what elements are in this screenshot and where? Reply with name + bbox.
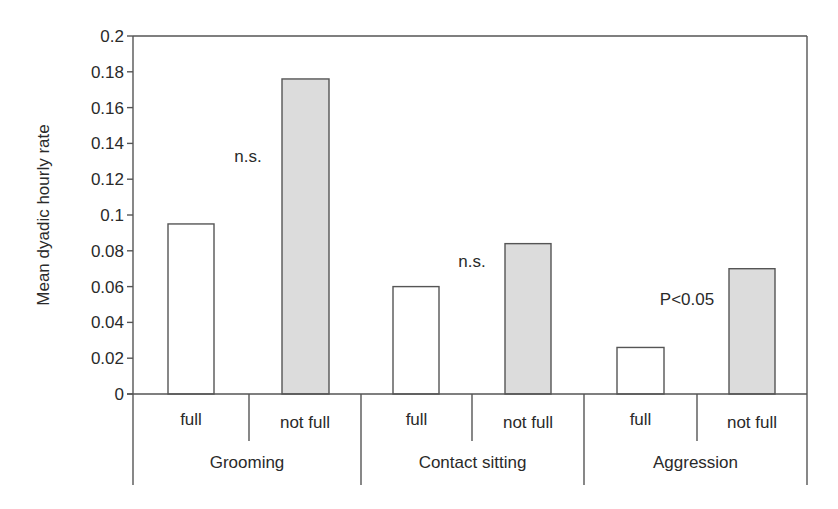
bar-contact-sitting-full <box>393 287 439 394</box>
y-tick-label: 0.18 <box>91 63 124 82</box>
y-tick-label: 0.02 <box>91 349 124 368</box>
category-label: Contact sitting <box>419 453 527 472</box>
y-tick-label: 0 <box>115 385 124 404</box>
bar-chart: Mean dyadic hourly rate 00.020.040.060.0… <box>0 0 838 509</box>
bar-grooming-full <box>168 224 214 394</box>
y-tick-label: 0.2 <box>100 27 124 46</box>
y-axis-ticks: 00.020.040.060.080.10.120.140.160.180.2 <box>91 27 133 404</box>
x-axis-categories: fullnot fullGroomingfullnot fullContact … <box>180 394 777 485</box>
bar-contact-sitting-not-full <box>505 244 551 394</box>
y-tick-label: 0.12 <box>91 170 124 189</box>
subcategory-label: full <box>180 410 202 429</box>
subcategory-label: full <box>406 410 428 429</box>
subcategory-label: not full <box>727 413 777 432</box>
bar-aggression-full <box>617 347 664 394</box>
subcategory-label: not full <box>280 413 330 432</box>
y-tick-label: 0.1 <box>100 206 124 225</box>
y-tick-label: 0.04 <box>91 313 124 332</box>
y-tick-label: 0.14 <box>91 134 124 153</box>
bars <box>168 79 775 394</box>
y-tick-label: 0.16 <box>91 99 124 118</box>
y-axis-title: Mean dyadic hourly rate <box>34 124 53 305</box>
category-label: Grooming <box>210 453 285 472</box>
significance-label: n.s. <box>234 147 261 166</box>
bar-aggression-not-full <box>729 269 775 394</box>
significance-label: P<0.05 <box>660 290 714 309</box>
bar-grooming-not-full <box>282 79 329 394</box>
category-label: Aggression <box>653 453 738 472</box>
subcategory-label: not full <box>503 413 553 432</box>
significance-label: n.s. <box>458 252 485 271</box>
y-tick-label: 0.06 <box>91 278 124 297</box>
y-tick-label: 0.08 <box>91 242 124 261</box>
subcategory-label: full <box>630 410 652 429</box>
